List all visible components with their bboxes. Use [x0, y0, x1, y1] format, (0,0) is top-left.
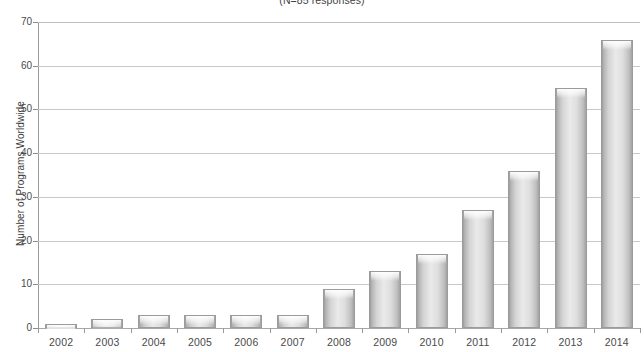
bar-slot: [362, 22, 408, 328]
x-tick-mark: [223, 328, 224, 333]
bar: [555, 88, 587, 328]
plot-area: [38, 22, 640, 328]
x-tick-mark: [547, 328, 548, 333]
bar-slot: [594, 22, 640, 328]
bar: [138, 315, 170, 328]
gridline-0: [38, 328, 640, 329]
x-tick-mark: [640, 328, 641, 333]
bar-series: [38, 22, 640, 328]
x-tick-mark: [270, 328, 271, 333]
bar: [508, 171, 540, 328]
bar-slot: [316, 22, 362, 328]
x-tick-mark: [455, 328, 456, 333]
bar: [369, 271, 401, 328]
bar-slot: [223, 22, 269, 328]
y-tick-label-10: 10: [8, 278, 32, 289]
y-tick-label-30: 30: [8, 191, 32, 202]
bar-chart: (N=85 responses) Number of Programs Worl…: [0, 0, 644, 352]
x-tick-mark: [177, 328, 178, 333]
y-tick-label-0: 0: [8, 322, 32, 333]
bar-slot: [455, 22, 501, 328]
x-tick-mark: [316, 328, 317, 333]
bar: [323, 289, 355, 328]
bar: [45, 324, 77, 328]
bar: [184, 315, 216, 328]
bar: [277, 315, 309, 328]
bar-slot: [84, 22, 130, 328]
y-tick-label-60: 60: [8, 60, 32, 71]
x-tick-mark: [501, 328, 502, 333]
bar-slot: [270, 22, 316, 328]
bar: [416, 254, 448, 328]
chart-subtitle: (N=85 responses): [0, 0, 644, 6]
bar-slot: [547, 22, 593, 328]
x-tick-mark: [594, 328, 595, 333]
y-tick-label-40: 40: [8, 147, 32, 158]
bar-slot: [501, 22, 547, 328]
bar: [91, 319, 123, 328]
bar-slot: [131, 22, 177, 328]
y-axis-title: Number of Programs Worldwide: [15, 59, 26, 289]
y-tick-label-20: 20: [8, 235, 32, 246]
x-tick-mark: [131, 328, 132, 333]
bar-slot: [177, 22, 223, 328]
x-tick-mark: [408, 328, 409, 333]
bar: [230, 315, 262, 328]
y-tick-label-50: 50: [8, 103, 32, 114]
x-tick-mark: [362, 328, 363, 333]
bar-slot: [38, 22, 84, 328]
x-tick-label-2014: 2014: [587, 336, 644, 348]
x-tick-mark-origin: [38, 328, 39, 333]
bar: [462, 210, 494, 328]
x-tick-mark: [84, 328, 85, 333]
bar-slot: [408, 22, 454, 328]
y-tick-label-70: 70: [8, 16, 32, 27]
bar: [601, 40, 633, 329]
